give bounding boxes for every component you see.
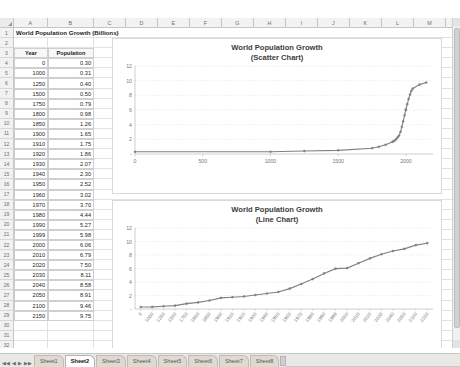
cell-population[interactable]: 0.31 (48, 68, 94, 78)
row-header-14[interactable]: 14 (0, 159, 14, 169)
cell-population[interactable]: 0.98 (48, 109, 94, 119)
cell-year[interactable]: 1000 (14, 68, 48, 78)
row-header-27[interactable]: 27 (0, 290, 14, 300)
column-header-g[interactable]: G (222, 18, 254, 27)
sheet-tab-sheet2[interactable]: Sheet2 (65, 355, 95, 367)
horizontal-scrollbar-nub[interactable] (280, 356, 286, 366)
empty-cells[interactable] (214, 28, 452, 38)
column-header-d[interactable]: D (126, 18, 158, 27)
scroll-up-arrow-icon[interactable] (453, 18, 460, 26)
column-header-e[interactable]: E (158, 18, 190, 27)
cell-population[interactable]: 1.65 (48, 129, 94, 139)
cell-population[interactable] (48, 321, 94, 331)
cell-year[interactable]: 1990 (14, 220, 48, 230)
vertical-scrollbar[interactable] (452, 18, 460, 348)
row-header-28[interactable]: 28 (0, 301, 14, 311)
sheet-title-cell[interactable]: World Population Growth (Billions) (14, 28, 214, 38)
row-header-4[interactable]: 4 (0, 58, 14, 68)
prev-sheet-icon[interactable]: ◀ (12, 361, 16, 366)
sheet-nav-buttons[interactable]: ◀◀ ◀ ▶ ▶▶ (0, 361, 34, 367)
cell-population[interactable]: 4.44 (48, 210, 94, 220)
cell-year[interactable]: 2020 (14, 260, 48, 270)
row-header-32[interactable]: 32 (0, 341, 14, 348)
column-header-m[interactable]: M (414, 18, 446, 27)
row-header-29[interactable]: 29 (0, 311, 14, 321)
cell-population[interactable]: 3.70 (48, 200, 94, 210)
cell-year[interactable]: 1940 (14, 169, 48, 179)
cell-population[interactable]: 9.46 (48, 301, 94, 311)
column-header-j[interactable]: J (318, 18, 350, 27)
column-header-h[interactable]: H (254, 18, 286, 27)
cell-year[interactable] (14, 321, 48, 331)
row-header-26[interactable]: 26 (0, 280, 14, 290)
row-header-2[interactable]: 2 (0, 38, 14, 48)
column-label-year[interactable]: Year (14, 48, 48, 58)
row-header-6[interactable]: 6 (0, 78, 14, 88)
cell-population[interactable]: 2.07 (48, 159, 94, 169)
cell-population[interactable]: 7.50 (48, 260, 94, 270)
row-header-25[interactable]: 25 (0, 270, 14, 280)
row-header-19[interactable]: 19 (0, 210, 14, 220)
cell-year[interactable]: 1500 (14, 89, 48, 99)
cell-year[interactable]: 2000 (14, 240, 48, 250)
row-header-13[interactable]: 13 (0, 149, 14, 159)
column-header-c[interactable]: C (94, 18, 126, 27)
cell-year[interactable]: 1920 (14, 149, 48, 159)
scatter-chart[interactable]: World Population Growth (Scatter Chart) … (112, 38, 442, 194)
cell-year[interactable]: 2100 (14, 301, 48, 311)
row-header-16[interactable]: 16 (0, 179, 14, 189)
cell-population[interactable]: 2.52 (48, 179, 94, 189)
row-header-21[interactable]: 21 (0, 230, 14, 240)
column-header-row[interactable]: ABCDEFGHIJKLM (0, 18, 452, 28)
row-header-3[interactable]: 3 (0, 48, 14, 58)
column-header-f[interactable]: F (190, 18, 222, 27)
cell-population[interactable]: 0.40 (48, 78, 94, 88)
row-header-5[interactable]: 5 (0, 68, 14, 78)
cell-population[interactable]: 9.75 (48, 311, 94, 321)
sheet-tab-sheet7[interactable]: Sheet7 (219, 355, 249, 367)
row-header-17[interactable]: 17 (0, 190, 14, 200)
cell-year[interactable]: 1850 (14, 119, 48, 129)
row-header-7[interactable]: 7 (0, 89, 14, 99)
cell-year[interactable]: 1950 (14, 179, 48, 189)
cell-year[interactable]: 1750 (14, 99, 48, 109)
row-header-20[interactable]: 20 (0, 220, 14, 230)
cell-population[interactable]: 0.79 (48, 99, 94, 109)
sheet-tab-sheet6[interactable]: Sheet6 (188, 355, 218, 367)
column-label-population[interactable]: Population (48, 48, 94, 58)
row-header-9[interactable]: 9 (0, 109, 14, 119)
column-header-i[interactable]: I (286, 18, 318, 27)
cell-year[interactable] (14, 38, 48, 48)
first-sheet-icon[interactable]: ◀◀ (2, 361, 10, 366)
row-header-10[interactable]: 10 (0, 119, 14, 129)
row-header-12[interactable]: 12 (0, 139, 14, 149)
row-header-1[interactable]: 1 (0, 28, 14, 38)
cell-population[interactable]: 3.02 (48, 190, 94, 200)
scroll-down-arrow-icon[interactable] (453, 340, 460, 348)
row-header-8[interactable]: 8 (0, 99, 14, 109)
row-header-31[interactable]: 31 (0, 331, 14, 341)
column-header-b[interactable]: B (48, 18, 94, 27)
cell-population[interactable] (48, 341, 94, 348)
cell-population[interactable]: 1.26 (48, 119, 94, 129)
cell-year[interactable]: 1900 (14, 129, 48, 139)
vertical-scrollbar-thumb[interactable] (454, 28, 460, 328)
cell-year[interactable]: 2050 (14, 290, 48, 300)
column-header-k[interactable]: K (350, 18, 382, 27)
cell-year[interactable]: 2150 (14, 311, 48, 321)
cell-year[interactable]: 1960 (14, 190, 48, 200)
cell-year[interactable]: 1970 (14, 200, 48, 210)
next-sheet-icon[interactable]: ▶ (18, 361, 22, 366)
row-header-23[interactable]: 23 (0, 250, 14, 260)
cell-year[interactable]: 0 (14, 58, 48, 68)
sheet-tabs[interactable]: Sheet1Sheet2Sheet3Sheet4Sheet5Sheet6Shee… (34, 355, 280, 367)
cell-population[interactable]: 8.58 (48, 280, 94, 290)
cell-population[interactable]: 0.30 (48, 58, 94, 68)
cell-year[interactable] (14, 341, 48, 348)
table-row[interactable]: 1World Population Growth (Billions) (0, 28, 452, 38)
cell-population[interactable]: 1.75 (48, 139, 94, 149)
cell-population[interactable]: 2.30 (48, 169, 94, 179)
row-header-24[interactable]: 24 (0, 260, 14, 270)
cell-population[interactable]: 5.98 (48, 230, 94, 240)
sheet-tab-sheet1[interactable]: Sheet1 (34, 355, 64, 367)
